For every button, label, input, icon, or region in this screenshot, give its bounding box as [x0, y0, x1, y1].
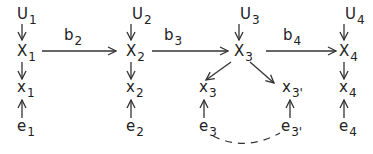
- edge-label-b2: b2: [64, 26, 82, 48]
- node-x2: x2: [126, 78, 144, 100]
- dashed-link-e3-e3prime: [213, 133, 280, 143]
- node-x1: x1: [17, 78, 35, 100]
- node-U2: U2: [132, 5, 152, 27]
- node-U1: U1: [17, 5, 37, 27]
- edge-label-b3: b3: [164, 26, 182, 48]
- node-x4: x4: [339, 78, 357, 100]
- node-e4: e4: [339, 117, 357, 139]
- node-U3: U3: [240, 5, 260, 27]
- column-1: U1 X1 x1 e1: [17, 5, 37, 139]
- node-X2: X2: [126, 42, 145, 64]
- edge-b2: b2: [42, 26, 116, 51]
- node-e3: e3: [199, 117, 217, 139]
- causal-diagram: U1 X1 x1 e1 b2 U2 X2 x2 e2 b3 U3 X3 x3 x…: [0, 0, 373, 154]
- arrow-X3-x3: [206, 62, 231, 80]
- node-x3: x3: [199, 78, 217, 100]
- node-X4: X4: [339, 42, 358, 64]
- node-e3prime: e3': [281, 117, 302, 139]
- column-2: U2 X2 x2 e2: [126, 5, 152, 139]
- node-X3: X3: [234, 42, 253, 64]
- node-U4: U4: [345, 5, 365, 27]
- node-e2: e2: [126, 117, 144, 139]
- edge-b4: b4: [266, 26, 336, 51]
- edge-label-b4: b4: [283, 26, 301, 48]
- arrow-X3-x3prime: [250, 62, 274, 83]
- edge-b3: b3: [152, 26, 228, 51]
- node-e1: e1: [17, 117, 35, 139]
- column-4: U4 X4 x4 e4: [339, 5, 365, 139]
- node-X1: X1: [17, 42, 36, 64]
- node-x3prime: x3': [282, 78, 303, 100]
